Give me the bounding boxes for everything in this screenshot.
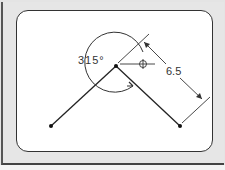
right-endpoint (178, 124, 182, 128)
angle-label: 315° (78, 54, 105, 66)
length-label: 6.5 (166, 65, 181, 77)
left-segment (51, 66, 116, 126)
angle-arrowhead (127, 82, 133, 86)
extension-line-bottom (182, 97, 210, 123)
polar-diagram: 315° 6.5 (0, 0, 225, 170)
left-endpoint (49, 124, 53, 128)
apex-point (114, 64, 118, 68)
